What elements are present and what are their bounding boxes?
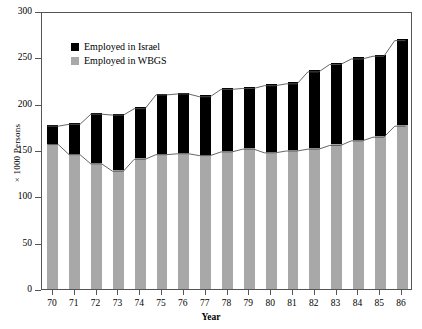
x-axis-tick — [227, 290, 228, 295]
y-axis-tick-label: 200 — [0, 100, 32, 110]
x-axis-tick — [205, 290, 206, 295]
x-axis-tick-label: 84 — [345, 298, 369, 308]
x-axis-tick-label: 75 — [149, 298, 173, 308]
x-axis-tick-label: 82 — [302, 298, 326, 308]
legend-item-israel: Employed in Israel — [71, 40, 167, 54]
x-axis-tick — [292, 290, 293, 295]
x-axis-tick — [96, 290, 97, 295]
legend: Employed in Israel Employed in WBGS — [71, 40, 167, 68]
x-axis-tick-label: 72 — [84, 298, 108, 308]
legend-swatch-wbgs-icon — [71, 57, 79, 65]
x-axis-tick — [161, 290, 162, 295]
legend-swatch-israel-icon — [71, 43, 79, 51]
x-axis-tick — [117, 290, 118, 295]
x-axis-tick-label: 76 — [171, 298, 195, 308]
legend-label-wbgs: Employed in WBGS — [84, 54, 167, 68]
x-axis-tick — [336, 290, 337, 295]
x-axis-tick-label: 79 — [236, 298, 260, 308]
x-axis-tick — [74, 290, 75, 295]
x-axis-tick-label: 73 — [105, 298, 129, 308]
x-axis-tick-label: 80 — [258, 298, 282, 308]
x-axis-tick — [357, 290, 358, 295]
x-axis-tick-label: 77 — [193, 298, 217, 308]
x-axis-tick-label: 71 — [62, 298, 86, 308]
x-axis-tick-label: 85 — [367, 298, 391, 308]
legend-item-wbgs: Employed in WBGS — [71, 54, 167, 68]
y-axis-tick-label: 0 — [0, 285, 32, 295]
y-axis-tick — [35, 290, 41, 291]
x-axis-tick — [52, 290, 53, 295]
x-axis-tick-label: 78 — [215, 298, 239, 308]
x-axis-tick — [139, 290, 140, 295]
x-axis-tick — [379, 290, 380, 295]
x-axis-tick — [401, 290, 402, 295]
legend-label-israel: Employed in Israel — [84, 40, 160, 54]
x-axis-tick — [248, 290, 249, 295]
x-axis-title: Year — [0, 312, 422, 322]
wbgs-outline — [47, 126, 405, 171]
y-axis-tick-label: 50 — [0, 239, 32, 249]
x-axis-tick-label: 74 — [127, 298, 151, 308]
employment-stacked-bar-chart: × 1000 Persons 300250200150100500 707172… — [0, 0, 422, 329]
x-axis-tick-label: 81 — [280, 298, 304, 308]
y-axis-tick-label: 300 — [0, 7, 32, 17]
x-axis-tick-label: 70 — [40, 298, 64, 308]
x-axis-tick — [183, 290, 184, 295]
y-axis-tick-label: 250 — [0, 53, 32, 63]
x-axis-tick-label: 83 — [324, 298, 348, 308]
x-axis-tick — [270, 290, 271, 295]
x-axis-tick-label: 86 — [389, 298, 413, 308]
x-axis-tick — [314, 290, 315, 295]
y-axis-tick-label: 100 — [0, 192, 32, 202]
y-axis-tick-label: 150 — [0, 146, 32, 156]
